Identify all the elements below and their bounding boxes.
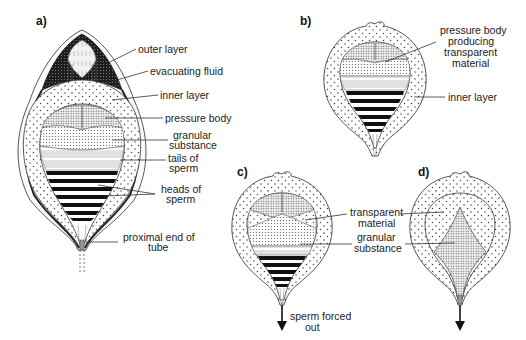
label-sperm-forced: sperm forced	[290, 310, 351, 322]
label-sperm-tails: sperm	[169, 162, 198, 174]
label-sperm-heads: sperm	[166, 193, 195, 205]
label-out: out	[305, 321, 320, 333]
label-outer-layer: outer layer	[138, 43, 188, 55]
label-substance-c: substance	[354, 242, 402, 254]
panel-label-c: c)	[237, 165, 248, 179]
label-evacuating-fluid: evacuating fluid	[150, 65, 223, 77]
label-material-c: material	[358, 217, 395, 229]
arrow-down-icon-d	[455, 321, 465, 331]
label-material-b: material	[452, 57, 489, 69]
label-inner-layer: inner layer	[160, 89, 210, 101]
panel-label-b: b)	[300, 14, 311, 28]
panel-c: c) transparent material granular substan…	[232, 165, 403, 333]
panel-d: d)	[400, 165, 510, 331]
arrow-down-icon-c	[277, 321, 287, 331]
label-tube: tube	[148, 241, 169, 253]
label-pressure-body: pressure body	[165, 112, 232, 124]
panel-label-a: a)	[36, 14, 47, 28]
label-inner-layer-b: inner layer	[448, 91, 498, 103]
panel-a: a)	[18, 14, 232, 272]
panel-label-d: d)	[418, 165, 429, 179]
label-substance: substance	[169, 139, 217, 151]
spermatophore-diagram: a)	[0, 0, 526, 340]
panel-b: b) pressure body producing transparent m…	[300, 14, 507, 156]
